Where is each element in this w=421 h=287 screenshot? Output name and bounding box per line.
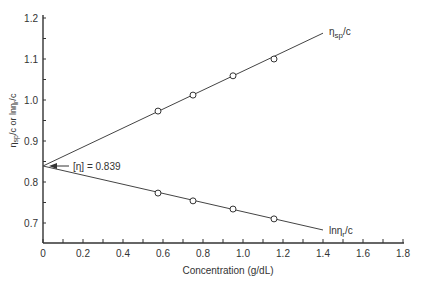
data-point — [230, 73, 236, 79]
y-tick-label: 0.8 — [24, 177, 38, 188]
x-tick-label: 0.4 — [116, 248, 130, 259]
series-label: lnηr/c — [329, 225, 353, 239]
x-tick-label: 1.0 — [236, 248, 250, 259]
y-tick-label: 1.0 — [24, 95, 38, 106]
y-tick-label: 1.1 — [24, 54, 38, 65]
x-axis-label: Concentration (g/dL) — [182, 265, 273, 276]
x-tick-label: 0.6 — [156, 248, 170, 259]
data-points — [155, 56, 277, 222]
x-tick-label: 1.2 — [276, 248, 290, 259]
data-point — [190, 92, 196, 98]
data-point — [271, 56, 277, 62]
series-labels: ηsp/clnηr/c — [329, 26, 353, 239]
fit-line — [43, 166, 323, 230]
x-tick-label: 1.8 — [396, 248, 410, 259]
y-axis-label: ηsp/c or lnηr/c — [8, 93, 20, 147]
data-point — [190, 198, 196, 204]
intercept-annotation: [η] = 0.839 — [49, 161, 121, 172]
data-point — [155, 190, 161, 196]
series-label: ηsp/c — [329, 26, 351, 40]
y-tick-label: 1.2 — [24, 13, 38, 24]
data-point — [155, 108, 161, 114]
x-tick-label: 0 — [40, 248, 46, 259]
data-point — [230, 206, 236, 212]
y-tick-label: 0.9 — [24, 136, 38, 147]
x-tick-label: 0.2 — [76, 248, 90, 259]
x-tick-label: 1.4 — [316, 248, 330, 259]
intrinsic-viscosity-chart: 00.20.40.60.81.01.21.41.61.80.70.80.91.0… — [0, 0, 421, 287]
axes: 00.20.40.60.81.01.21.41.61.80.70.80.91.0… — [8, 13, 410, 276]
intercept-label: [η] = 0.839 — [73, 161, 121, 172]
x-tick-label: 1.6 — [356, 248, 370, 259]
x-tick-label: 0.8 — [196, 248, 210, 259]
data-point — [271, 216, 277, 222]
fit-line — [43, 33, 323, 166]
fit-lines — [43, 33, 323, 230]
y-tick-label: 0.7 — [24, 218, 38, 229]
